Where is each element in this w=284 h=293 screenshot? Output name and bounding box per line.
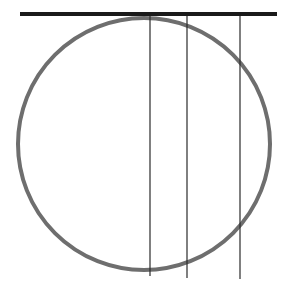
circle-tangent-diagram [0, 0, 284, 293]
circle [18, 18, 270, 270]
